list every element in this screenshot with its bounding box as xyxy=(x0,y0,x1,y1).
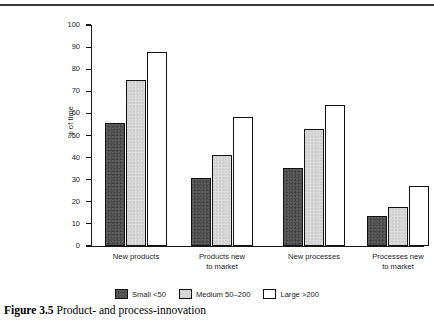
x-axis-category-label: Products new to market xyxy=(175,252,269,272)
y-axis-tick-label: 30 xyxy=(58,176,80,184)
bar xyxy=(283,168,303,246)
y-axis-tick xyxy=(86,179,91,180)
y-axis-tick xyxy=(86,201,91,202)
legend-swatch-icon xyxy=(263,289,276,299)
bar xyxy=(105,123,125,246)
legend-swatch-icon xyxy=(115,289,128,299)
legend-item: Medium 50–200 xyxy=(179,289,250,299)
y-axis-tick xyxy=(86,91,91,92)
y-axis-tick-label: 50 xyxy=(58,132,80,140)
x-axis-category-label: New products xyxy=(89,252,183,262)
y-axis-tick xyxy=(86,245,91,246)
plot-area xyxy=(91,25,424,246)
y-axis-tick xyxy=(86,69,91,70)
figure-caption-text: Product- and process-innovation xyxy=(57,304,206,316)
y-axis-tick-label: 20 xyxy=(58,198,80,206)
y-axis-tick-label: 100 xyxy=(58,21,80,29)
y-axis-tick-label: 70 xyxy=(58,87,80,95)
y-axis-tick xyxy=(86,135,91,136)
y-axis-tick-label: 10 xyxy=(58,220,80,228)
y-axis-tick xyxy=(86,24,91,25)
bar xyxy=(233,117,253,246)
bar xyxy=(409,186,429,246)
y-axis-tick-label: 90 xyxy=(58,43,80,51)
y-axis-label: % of time xyxy=(66,87,75,157)
bar xyxy=(388,207,408,246)
y-axis-tick-label: 0 xyxy=(58,242,80,250)
y-axis-tick xyxy=(86,47,91,48)
bar xyxy=(191,178,211,247)
legend-item: Large >200 xyxy=(263,289,319,299)
y-axis-tick xyxy=(86,113,91,114)
y-axis-tick xyxy=(86,223,91,224)
legend-item: Small <50 xyxy=(115,289,166,299)
bar xyxy=(325,105,345,246)
bar xyxy=(367,216,387,246)
y-axis-tick-label: 40 xyxy=(58,154,80,162)
y-axis-tick-label: 80 xyxy=(58,65,80,73)
x-axis-category-label: New processes xyxy=(267,252,361,262)
figure-caption: Figure 3.5 Product- and process-innovati… xyxy=(4,304,206,316)
legend-label: Large >200 xyxy=(280,290,319,299)
y-axis-tick-label: 60 xyxy=(58,109,80,117)
chart-legend: Small <50Medium 50–200Large >200 xyxy=(0,289,434,299)
page-top-rule xyxy=(0,4,434,6)
bar xyxy=(304,129,324,246)
figure-caption-number: Figure 3.5 xyxy=(4,304,54,316)
bar xyxy=(212,155,232,246)
x-axis-category-label: Processes new to market xyxy=(351,252,434,272)
y-axis-tick xyxy=(86,157,91,158)
legend-label: Small <50 xyxy=(132,290,166,299)
figure-chart: % of time 1009080706050403020100 New pro… xyxy=(0,8,434,298)
bar xyxy=(126,80,146,246)
legend-swatch-icon xyxy=(179,289,192,299)
x-axis-line xyxy=(91,246,424,247)
legend-label: Medium 50–200 xyxy=(196,290,250,299)
y-axis-line xyxy=(91,25,92,246)
bar xyxy=(147,52,167,246)
